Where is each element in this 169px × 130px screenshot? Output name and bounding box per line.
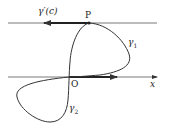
gamma2-label: γ2 <box>69 104 78 115</box>
gamma1-label: γ1 <box>128 38 137 49</box>
gamma2-subscript: 2 <box>74 108 78 115</box>
diagram: γ′(c) P γ1 O x γ2 <box>0 0 169 130</box>
point-p-label: P <box>85 11 91 20</box>
x-axis-label: x <box>150 80 155 89</box>
curve-gamma1 <box>69 23 130 77</box>
point-p-dot <box>87 21 90 24</box>
gamma1-subscript: 1 <box>133 42 137 49</box>
origin-label: O <box>71 80 78 89</box>
tangent-label: γ′(c) <box>38 7 58 16</box>
